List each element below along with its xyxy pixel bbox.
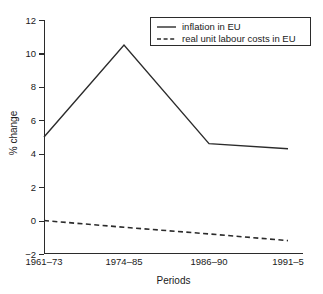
dashed-line-icon (157, 34, 176, 44)
legend-entry-real-unit-labour-costs: real unit labour costs in EU (157, 33, 310, 44)
solid-line-icon (157, 22, 176, 32)
series-line-inflation-in-eu (44, 45, 288, 149)
legend-label-real-unit-labour-costs: real unit labour costs in EU (182, 34, 296, 44)
legend-entry-inflation: inflation in EU (157, 21, 310, 32)
line-chart-figure: 12 10 8 6 4 2 0 −2 1961–73 1974–85 1986–… (0, 0, 323, 294)
chart-legend: inflation in EU real unit labour costs i… (150, 17, 311, 46)
series-line-real-unit-labour-costs-in-eu (44, 221, 288, 241)
legend-label-inflation: inflation in EU (182, 22, 241, 32)
